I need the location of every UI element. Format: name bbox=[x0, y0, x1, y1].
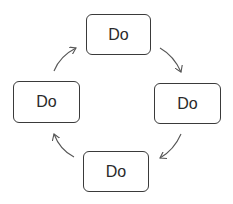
arrow-top-to-right-icon bbox=[160, 48, 181, 72]
node-left: Do bbox=[13, 81, 80, 123]
node-bottom-label: Do bbox=[106, 163, 126, 181]
node-right-label: Do bbox=[177, 95, 197, 113]
node-right: Do bbox=[154, 83, 221, 124]
node-left-label: Do bbox=[36, 93, 56, 111]
cycle-diagram: Do Do Do Do bbox=[0, 0, 233, 204]
node-top-label: Do bbox=[108, 26, 128, 44]
node-top: Do bbox=[86, 14, 151, 55]
arrow-left-to-top-icon bbox=[54, 48, 76, 71]
node-bottom: Do bbox=[83, 151, 149, 192]
arrow-bottom-to-left-icon bbox=[54, 134, 74, 157]
arrow-right-to-bottom-icon bbox=[160, 134, 181, 158]
